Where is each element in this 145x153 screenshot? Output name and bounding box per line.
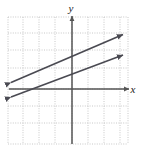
graph-canvas: x y: [0, 0, 145, 153]
plot-lines: [11, 35, 123, 98]
coordinate-plane-figure: x y: [0, 0, 145, 153]
x-axis-label: x: [130, 83, 136, 95]
y-axis-label: y: [68, 2, 74, 14]
grid: [8, 17, 128, 144]
axes: [9, 16, 129, 144]
